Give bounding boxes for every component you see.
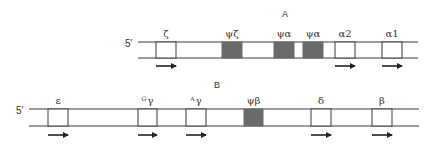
gene-box — [382, 42, 402, 58]
gene-cluster-b: B5′εGγAγψβδβ — [16, 80, 419, 135]
gene-label: ψα — [306, 28, 321, 39]
gene-box — [244, 109, 263, 126]
gene-label: Aγ — [189, 95, 201, 106]
globin-gene-cluster-diagram: A5′ζψζψαψαα2α1B5′εGγAγψβδβ — [0, 0, 434, 146]
gene-box — [48, 109, 68, 126]
gene-box — [156, 42, 176, 58]
gene-label: α1 — [385, 28, 398, 39]
gene: ζ — [156, 28, 176, 66]
section-label: A — [282, 9, 288, 19]
gene-label: ζ — [163, 28, 169, 39]
pseudogene: ψα — [274, 28, 294, 58]
gene-box — [274, 42, 294, 58]
gene-box — [311, 109, 331, 126]
five-prime-label: 5′ — [125, 38, 133, 49]
pseudogene: ψζ — [222, 28, 242, 58]
gene: ε — [48, 95, 68, 135]
gene: α1 — [382, 28, 402, 66]
gene-box — [303, 42, 323, 58]
gene: Gγ — [138, 95, 157, 135]
gene-box — [138, 109, 157, 126]
gene: δ — [311, 95, 331, 135]
gene-box — [372, 109, 392, 126]
gene-box — [335, 42, 355, 58]
gene: Aγ — [186, 95, 206, 135]
pseudogene: ψα — [303, 28, 323, 58]
gene-box — [222, 42, 242, 58]
gene-label: δ — [318, 95, 324, 106]
gene-label: ψα — [277, 28, 292, 39]
gene-label: ψζ — [225, 28, 239, 39]
gene-label: Gγ — [142, 95, 154, 106]
section-label: B — [214, 80, 220, 90]
gene-label: ε — [55, 95, 60, 106]
gene-box — [186, 109, 206, 126]
gene: β — [372, 95, 392, 135]
gene-label: ψβ — [247, 95, 261, 106]
gene-label: β — [379, 95, 385, 106]
gene-label: α2 — [338, 28, 351, 39]
five-prime-label: 5′ — [16, 105, 24, 116]
pseudogene: ψβ — [244, 95, 263, 126]
gene: α2 — [335, 28, 355, 66]
gene-cluster-a: A5′ζψζψαψαα2α1 — [125, 9, 418, 66]
